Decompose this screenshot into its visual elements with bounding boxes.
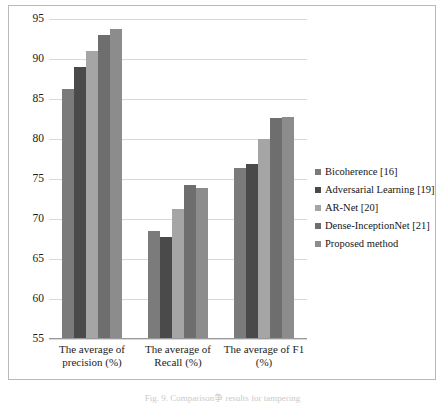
legend-item[interactable]: Adversarial Learning [19]	[315, 184, 435, 195]
bar	[98, 35, 110, 339]
bar	[246, 164, 258, 339]
x-axis-category-label: The average of Recall (%)	[135, 343, 221, 369]
y-axis-tick-label: 60	[33, 293, 45, 305]
legend-swatch-icon	[315, 187, 321, 193]
bar	[74, 67, 86, 339]
plot-inner: 959085807570656055	[49, 19, 307, 339]
bar	[270, 118, 282, 339]
y-axis-tick-label: 90	[33, 53, 45, 65]
chart-legend: Bicoherence [16]Adversarial Learning [19…	[315, 166, 435, 256]
bar	[282, 117, 294, 339]
x-axis-baseline	[49, 338, 307, 339]
bar	[110, 29, 122, 339]
y-axis-tick-label: 75	[33, 173, 45, 185]
legend-item[interactable]: Dense-InceptionNet [21]	[315, 220, 435, 231]
bar	[184, 185, 196, 339]
legend-item-label: AR-Net [20]	[325, 202, 378, 213]
y-axis-tick-label: 80	[33, 133, 45, 145]
y-axis-tick-label: 55	[33, 333, 45, 345]
figure-caption: Fig. 9. Comparison争 results for tamperin…	[0, 393, 445, 404]
chart-figure-frame: 959085807570656055 The average of precis…	[8, 5, 436, 380]
y-axis-tick-label: 70	[33, 213, 45, 225]
bar	[62, 89, 74, 339]
legend-item-label: Bicoherence [16]	[325, 166, 398, 177]
legend-swatch-icon	[315, 223, 321, 229]
legend-item-label: Dense-InceptionNet [21]	[325, 220, 430, 231]
bar-group	[49, 19, 135, 339]
legend-swatch-icon	[315, 205, 321, 211]
bar	[172, 209, 184, 339]
bar	[148, 231, 160, 339]
x-axis-category-label: The average of precision (%)	[49, 343, 135, 369]
y-axis-tick-label: 65	[33, 253, 45, 265]
legend-item[interactable]: Proposed method	[315, 238, 435, 249]
bar	[86, 51, 98, 339]
bar	[234, 168, 246, 339]
bar-groups	[49, 19, 307, 339]
y-axis-tick-label: 85	[33, 93, 45, 105]
bar	[196, 188, 208, 339]
legend-swatch-icon	[315, 169, 321, 175]
bar-group	[221, 19, 307, 339]
x-axis-category-label: The average of F1 (%)	[221, 343, 307, 369]
plot-area: 959085807570656055	[49, 19, 307, 339]
legend-swatch-icon	[315, 241, 321, 247]
gridline	[49, 339, 307, 340]
bar	[258, 139, 270, 339]
bar-group	[135, 19, 221, 339]
y-axis-tick-label: 95	[33, 13, 45, 25]
legend-item-label: Adversarial Learning [19]	[325, 184, 435, 195]
bar	[160, 237, 172, 339]
legend-item[interactable]: Bicoherence [16]	[315, 166, 435, 177]
x-axis-category-labels: The average of precision (%)The average …	[49, 343, 307, 369]
legend-item-label: Proposed method	[325, 238, 398, 249]
legend-item[interactable]: AR-Net [20]	[315, 202, 435, 213]
